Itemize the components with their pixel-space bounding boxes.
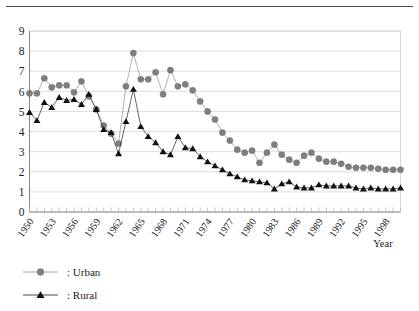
x-tick-label-1983: 1983 [260, 216, 280, 239]
x-tick-label-1950: 1950 [15, 216, 35, 239]
datapoint-rural-1977 [226, 170, 233, 176]
datapoint-rural-1978 [234, 173, 241, 179]
datapoint-rural-1966 [145, 133, 152, 139]
datapoint-urban-1992 [338, 161, 344, 167]
datapoint-urban-1997 [375, 166, 381, 172]
y-axis-tick-labels: 0123456789 [19, 25, 25, 218]
datapoint-rural-1956 [71, 96, 78, 102]
x-tick-label-1977: 1977 [215, 216, 235, 239]
datapoint-rural-1988 [308, 185, 315, 191]
x-tick-label-1998: 1998 [371, 216, 391, 239]
datapoint-urban-1980 [249, 148, 255, 154]
datapoint-urban-1990 [323, 159, 329, 165]
datapoint-urban-1991 [331, 159, 337, 165]
legend-circle-marker [37, 269, 44, 276]
x-tick-label-1968: 1968 [149, 216, 169, 239]
datapoint-urban-2000 [397, 167, 403, 173]
datapoint-urban-1950 [26, 90, 32, 96]
y-tick-label-4: 4 [19, 126, 25, 138]
datapoint-urban-1988 [308, 150, 314, 156]
datapoint-urban-1970 [175, 83, 181, 89]
datapoint-urban-1957 [78, 78, 84, 84]
datapoint-urban-1974 [204, 108, 210, 114]
datapoint-urban-1984 [279, 152, 285, 158]
datapoint-urban-1951 [34, 90, 40, 96]
x-tick-label-1959: 1959 [82, 216, 102, 239]
datapoint-rural-1979 [241, 177, 248, 183]
datapoint-rural-1991 [330, 183, 337, 189]
y-tick-label-7: 7 [19, 65, 25, 77]
x-tick-label-1956: 1956 [60, 216, 80, 239]
datapoint-urban-1995 [360, 165, 366, 171]
datapoint-urban-1976 [219, 129, 225, 135]
datapoint-rural-1976 [219, 166, 226, 172]
datapoint-rural-1970 [174, 133, 181, 139]
y-tick-label-6: 6 [19, 86, 25, 98]
datapoint-rural-1971 [182, 144, 189, 150]
x-tick-label-1989: 1989 [305, 216, 325, 239]
x-tick-label-1986: 1986 [282, 216, 302, 239]
datapoint-urban-1971 [182, 81, 188, 87]
datapoint-rural-1954 [56, 94, 63, 100]
x-axis-tick-marks [30, 208, 401, 213]
datapoint-urban-1952 [41, 75, 47, 81]
legend-triangle-marker [37, 291, 45, 298]
datapoint-urban-1983 [271, 142, 277, 148]
datapoint-rural-1969 [167, 151, 174, 157]
line-chart-svg: 0123456789 19501953195619591962196519681… [0, 0, 419, 311]
x-tick-label-1965: 1965 [126, 216, 146, 239]
datapoint-urban-1966 [145, 76, 151, 82]
legend-item-rural: : Rural [23, 289, 97, 301]
x-tick-label-1962: 1962 [104, 216, 124, 239]
datapoint-urban-1955 [64, 82, 70, 88]
x-axis-title: Year [373, 238, 393, 249]
datapoint-rural-1963 [122, 118, 129, 124]
datapoint-urban-1996 [368, 165, 374, 171]
datapoint-urban-1969 [167, 67, 173, 73]
datapoint-urban-1985 [286, 157, 292, 163]
series-line-rural [30, 89, 401, 189]
x-tick-label-1971: 1971 [171, 216, 191, 239]
y-tick-label-2: 2 [19, 166, 25, 178]
datapoint-rural-1992 [338, 183, 345, 189]
y-tick-label-1: 1 [19, 186, 25, 198]
datapoint-rural-1993 [345, 183, 352, 189]
datapoint-urban-1956 [71, 89, 77, 95]
datapoint-urban-1986 [294, 160, 300, 166]
datapoint-urban-1998 [383, 167, 389, 173]
datapoint-urban-1982 [264, 150, 270, 156]
x-axis-tick-labels: 1950195319561959196219651968197119741977… [15, 216, 392, 239]
datapoint-urban-1978 [234, 147, 240, 153]
datapoint-urban-1989 [316, 156, 322, 162]
datapoint-rural-1965 [137, 123, 144, 129]
datapoint-urban-1965 [138, 76, 144, 82]
datapoint-urban-1994 [353, 165, 359, 171]
datapoint-rural-1974 [204, 158, 211, 164]
datapoint-rural-1964 [130, 86, 137, 92]
datapoint-urban-1967 [153, 69, 159, 75]
datapoint-rural-1957 [78, 101, 85, 107]
y-tick-label-0: 0 [19, 206, 25, 218]
datapoint-urban-1999 [390, 167, 396, 173]
datapoint-rural-1998 [382, 186, 389, 192]
chart-container: 0123456789 19501953195619591962196519681… [0, 0, 419, 311]
datapoint-urban-1973 [197, 98, 203, 104]
x-tick-label-1980: 1980 [238, 216, 258, 239]
x-tick-label-1995: 1995 [349, 216, 369, 239]
chart-legend: : Urban: Rural [23, 266, 101, 301]
datapoint-urban-1987 [301, 153, 307, 159]
datapoint-urban-1993 [345, 164, 351, 170]
datapoint-rural-1975 [212, 162, 219, 168]
datapoint-urban-1953 [49, 84, 55, 90]
legend-label-0: : Urban [67, 266, 101, 278]
datapoint-rural-1962 [115, 150, 122, 156]
datapoint-urban-1975 [212, 116, 218, 122]
x-axis-title-label: Year [373, 238, 393, 249]
y-tick-label-9: 9 [19, 25, 25, 37]
y-tick-label-8: 8 [19, 45, 25, 57]
datapoint-rural-1953 [48, 104, 55, 110]
y-tick-label-5: 5 [19, 106, 25, 118]
datapoint-rural-1985 [286, 179, 293, 185]
datapoint-rural-1952 [41, 99, 48, 105]
legend-item-urban: : Urban [23, 266, 101, 278]
